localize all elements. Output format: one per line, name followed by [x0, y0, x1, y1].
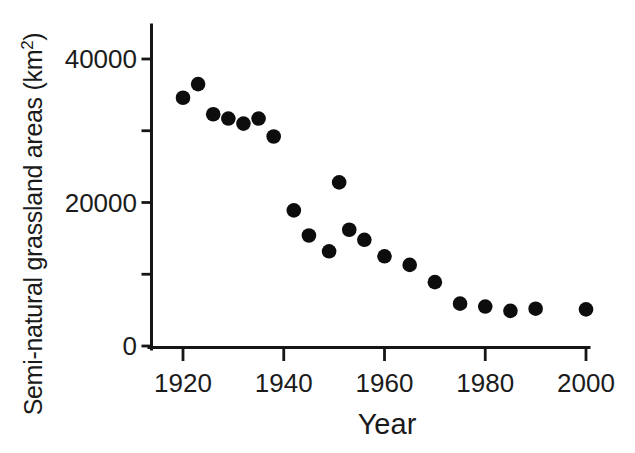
data-point [402, 258, 417, 273]
y-axis-title-superscript: 2 [18, 41, 37, 50]
data-point [287, 203, 302, 218]
y-tick-label: 0 [123, 331, 137, 361]
y-axis-title-close-paren: ) [19, 33, 47, 41]
data-point [251, 111, 266, 126]
data-point [377, 249, 392, 264]
data-point [453, 296, 468, 311]
grassland-decline-figure: 0200004000019201940196019802000 Year Sem… [0, 0, 635, 453]
y-tick-label: 40000 [65, 44, 137, 74]
y-axis-title-base: Semi-natural grassland areas (km [19, 50, 47, 416]
data-point [357, 233, 372, 248]
data-point [428, 275, 443, 290]
x-tick-label: 2000 [557, 368, 615, 398]
data-point [206, 107, 221, 122]
data-point [266, 129, 281, 144]
data-point [322, 244, 337, 259]
data-point [528, 301, 543, 316]
data-point [503, 304, 518, 319]
x-tick-label: 1920 [154, 368, 212, 398]
data-point [579, 302, 594, 317]
data-point [221, 111, 236, 126]
axes-group: 0200004000019201940196019802000 [65, 25, 615, 398]
y-tick-label: 20000 [65, 188, 137, 218]
data-point [302, 228, 317, 243]
data-point [342, 222, 357, 237]
data-point [176, 90, 191, 105]
y-axis-title: Semi-natural grassland areas (km2) [18, 33, 47, 416]
data-point [191, 77, 206, 92]
data-points-group [176, 77, 594, 318]
data-point [332, 175, 347, 190]
grassland-scatter-chart: 0200004000019201940196019802000 Year Sem… [0, 0, 635, 453]
data-point [236, 116, 251, 131]
x-axis-title: Year [358, 408, 417, 440]
x-tick-label: 1980 [456, 368, 514, 398]
data-point [478, 299, 493, 314]
x-tick-label: 1960 [356, 368, 414, 398]
x-tick-label: 1940 [255, 368, 313, 398]
